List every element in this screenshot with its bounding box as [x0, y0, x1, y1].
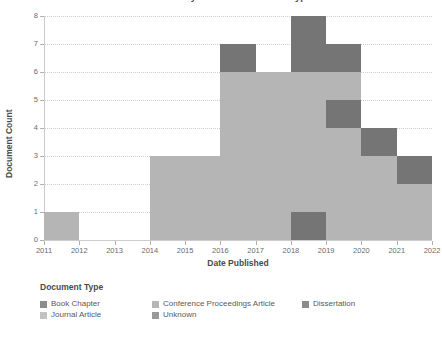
y-tick-mark	[40, 184, 44, 185]
x-tick-mark	[44, 241, 45, 245]
x-tick-label: 2011	[29, 246, 59, 255]
bar-2018[interactable]	[291, 16, 326, 240]
x-tick-label: 2017	[241, 246, 271, 255]
y-tick-mark	[40, 72, 44, 73]
x-tick-label: 2021	[382, 246, 412, 255]
x-tick-label: 2015	[170, 246, 200, 255]
bar-segment[interactable]	[44, 212, 79, 240]
bar-segment[interactable]	[397, 156, 432, 184]
y-tick-label: 3	[20, 151, 38, 160]
x-tick-mark	[361, 241, 362, 245]
y-tick-label: 4	[20, 123, 38, 132]
legend: Document Type Book ChapterConference Pro…	[40, 282, 440, 321]
bar-2019[interactable]	[326, 16, 361, 240]
bar-segment[interactable]	[361, 128, 396, 156]
x-tick-label: 2022	[417, 246, 442, 255]
bar-segment[interactable]	[397, 184, 432, 240]
y-tick-label: 0	[20, 235, 38, 244]
x-tick-label: 2016	[205, 246, 235, 255]
legend-item[interactable]: Dissertation	[302, 299, 355, 309]
bar-segment[interactable]	[326, 44, 361, 72]
legend-item[interactable]: Journal Article	[40, 310, 101, 320]
x-tick-mark	[326, 241, 327, 245]
legend-title: Document Type	[40, 282, 440, 292]
bar-segment[interactable]	[326, 128, 361, 240]
bar-2016[interactable]	[220, 16, 255, 240]
y-axis-title: Document Count	[4, 78, 14, 90]
bar-segment[interactable]	[256, 72, 291, 240]
y-tick-label: 2	[20, 179, 38, 188]
legend-item[interactable]: Unknown	[152, 310, 196, 320]
bar-segment[interactable]	[150, 156, 185, 240]
bar-segment[interactable]	[291, 72, 326, 212]
legend-items: Book ChapterConference Proceedings Artic…	[40, 299, 440, 321]
bar-2021[interactable]	[397, 16, 432, 240]
legend-label: Conference Proceedings Article	[163, 299, 275, 309]
x-tick-label: 2013	[100, 246, 130, 255]
y-axis-title-label: Document Count	[4, 166, 14, 178]
bar-segment[interactable]	[326, 100, 361, 128]
gridline	[44, 240, 432, 241]
chart-title: Documents by Year and Document Type	[0, 0, 442, 3]
x-tick-label: 2014	[135, 246, 165, 255]
y-tick-mark	[40, 156, 44, 157]
x-tick-mark	[115, 241, 116, 245]
legend-swatch-icon	[152, 301, 159, 308]
chart-figure: Documents by Year and Document Type Docu…	[0, 0, 442, 337]
legend-item[interactable]: Book Chapter	[40, 299, 100, 309]
legend-label: Unknown	[163, 310, 196, 320]
y-tick-mark	[40, 212, 44, 213]
bar-2011[interactable]	[44, 16, 79, 240]
legend-label: Book Chapter	[51, 299, 100, 309]
y-tick-label: 5	[20, 95, 38, 104]
legend-swatch-icon	[302, 301, 309, 308]
legend-item[interactable]: Conference Proceedings Article	[152, 299, 275, 309]
legend-swatch-icon	[40, 312, 47, 319]
y-tick-mark	[40, 44, 44, 45]
y-tick-mark	[40, 100, 44, 101]
legend-swatch-icon	[40, 301, 47, 308]
x-tick-label: 2020	[346, 246, 376, 255]
bar-segment[interactable]	[291, 212, 326, 240]
bar-segment[interactable]	[220, 72, 255, 240]
bar-segment[interactable]	[291, 16, 326, 72]
bar-segment[interactable]	[361, 156, 396, 240]
legend-label: Dissertation	[313, 299, 355, 309]
bar-segment[interactable]	[185, 156, 220, 240]
bar-segment[interactable]	[326, 72, 361, 100]
y-tick-label: 7	[20, 39, 38, 48]
y-tick-mark	[40, 128, 44, 129]
plot-area	[44, 16, 432, 240]
x-tick-mark	[291, 241, 292, 245]
x-tick-mark	[397, 241, 398, 245]
legend-swatch-icon	[152, 312, 159, 319]
legend-label: Journal Article	[51, 310, 101, 320]
x-tick-label: 2018	[276, 246, 306, 255]
x-tick-mark	[150, 241, 151, 245]
bar-2015[interactable]	[185, 16, 220, 240]
x-tick-mark	[432, 241, 433, 245]
x-axis-title: Date Published	[44, 258, 432, 268]
bar-2014[interactable]	[150, 16, 185, 240]
x-tick-mark	[220, 241, 221, 245]
y-tick-mark	[40, 16, 44, 17]
bar-2017[interactable]	[256, 16, 291, 240]
x-tick-label: 2012	[64, 246, 94, 255]
y-tick-label: 6	[20, 67, 38, 76]
x-tick-mark	[185, 241, 186, 245]
bar-segment[interactable]	[220, 44, 255, 72]
y-tick-label: 1	[20, 207, 38, 216]
x-tick-mark	[79, 241, 80, 245]
y-tick-label: 8	[20, 11, 38, 20]
x-tick-mark	[256, 241, 257, 245]
x-tick-label: 2019	[311, 246, 341, 255]
bar-2020[interactable]	[361, 16, 396, 240]
